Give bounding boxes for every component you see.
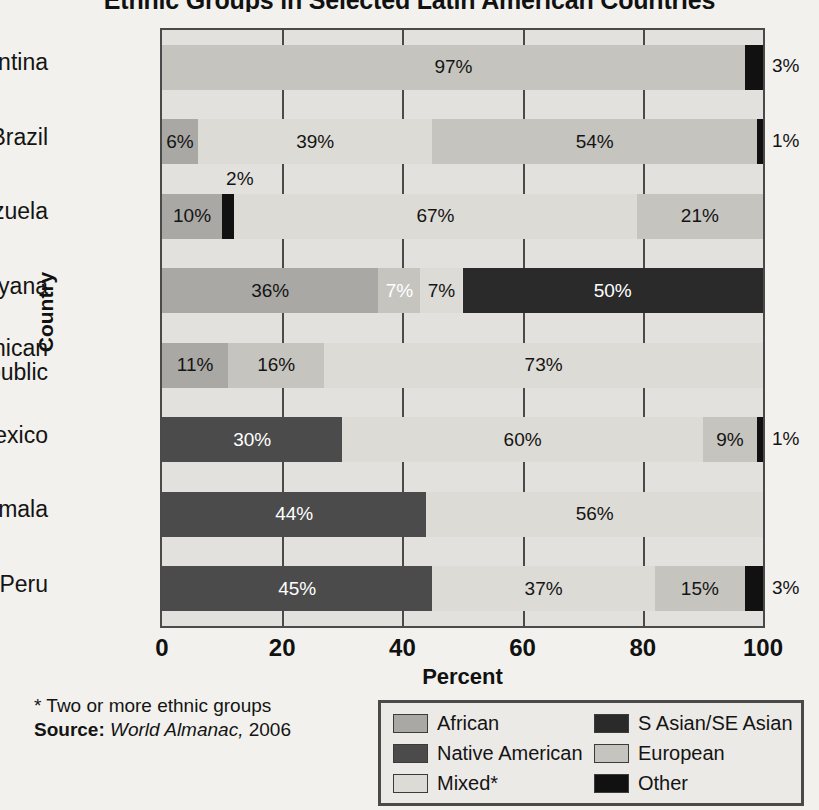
bar-segment-other <box>222 194 234 239</box>
legend-item-sasian: S Asian/SE Asian <box>594 708 793 738</box>
bar-segment-other <box>745 566 763 611</box>
legend-item-native: Native American <box>393 738 592 768</box>
x-axis-title: Percent <box>160 664 765 690</box>
bar-row-guyana: 36%7%7%50% <box>162 268 763 313</box>
segment-value-label-outside: 3% <box>772 577 799 599</box>
country-label-mexico: Mexico <box>0 424 48 447</box>
legend-label-african: African <box>437 712 499 735</box>
bar-segment-mixed: 37% <box>432 566 654 611</box>
bar-segment-european: 21% <box>637 194 763 239</box>
segment-value-label: 10% <box>173 205 211 227</box>
bar-segment-mixed: 7% <box>420 268 462 313</box>
bar-row-dominican-republic: 11%16%73% <box>162 343 763 388</box>
legend: AfricanS Asian/SE AsianNative AmericanEu… <box>378 700 804 806</box>
country-label-peru: Peru <box>0 573 48 596</box>
x-tick-40: 40 <box>367 634 437 662</box>
bar-segment-sasian: 50% <box>463 268 764 313</box>
bar-segment-european: 54% <box>432 119 757 164</box>
segment-value-label: 11% <box>177 354 214 376</box>
segment-value-label-outside: 1% <box>772 428 799 450</box>
bar-row-brazil: 6%39%54% <box>162 119 763 164</box>
legend-swatch-mixed <box>393 774 428 793</box>
segment-value-label-callout: 2% <box>226 168 253 190</box>
source-label: Source: <box>34 719 105 740</box>
segment-value-label: 37% <box>525 578 563 600</box>
country-label-guatemala: Guatemala <box>0 498 48 521</box>
bar-segment-european: 15% <box>655 566 745 611</box>
legend-label-mixed: Mixed* <box>437 772 498 795</box>
bar-segment-native: 45% <box>162 566 432 611</box>
bar-segment-other <box>757 417 763 462</box>
legend-item-other: Other <box>594 769 793 799</box>
x-tick-60: 60 <box>488 634 558 662</box>
segment-value-label: 60% <box>504 429 542 451</box>
segment-value-label: 7% <box>428 280 455 302</box>
legend-swatch-sasian <box>594 714 629 733</box>
segment-value-label: 9% <box>716 429 743 451</box>
bar-segment-other <box>745 45 763 90</box>
segment-value-label: 6% <box>166 131 193 153</box>
legend-label-other: Other <box>638 772 688 795</box>
legend-swatch-european <box>594 744 629 763</box>
x-tick-20: 20 <box>247 634 317 662</box>
x-tick-0: 0 <box>127 634 197 662</box>
bar-segment-native: 30% <box>162 417 342 462</box>
segment-value-label: 56% <box>576 503 614 525</box>
footnote: * Two or more ethnic groups <box>34 694 291 718</box>
segment-value-label: 21% <box>681 205 719 227</box>
bar-row-venezuela: 10%67%21% <box>162 194 763 239</box>
bar-segment-african: 10% <box>162 194 222 239</box>
bar-segment-european: 7% <box>378 268 420 313</box>
chart-title: Ethnic Groups in Selected Latin American… <box>0 0 819 12</box>
country-label-guyana: Guyana <box>0 275 48 298</box>
bar-segment-european: 16% <box>228 343 324 388</box>
segment-value-label: 7% <box>386 280 413 302</box>
segment-value-label: 16% <box>257 354 295 376</box>
bar-row-guatemala: 44%56% <box>162 492 763 537</box>
segment-value-label: 54% <box>576 131 614 153</box>
segment-value-label: 50% <box>594 280 632 302</box>
notes-block: * Two or more ethnic groups Source: Worl… <box>34 694 291 743</box>
bar-segment-mixed: 39% <box>198 119 432 164</box>
segment-value-label: 44% <box>275 503 313 525</box>
bar-segment-mixed: 56% <box>426 492 763 537</box>
legend-swatch-african <box>393 714 428 733</box>
bar-row-peru: 45%37%15% <box>162 566 763 611</box>
bar-segment-african: 36% <box>162 268 378 313</box>
legend-label-sasian: S Asian/SE Asian <box>638 712 793 735</box>
bar-segment-european: 9% <box>703 417 757 462</box>
legend-label-native: Native American <box>437 742 583 765</box>
country-label-venezuela: Venezuela <box>0 200 48 223</box>
x-tick-80: 80 <box>608 634 678 662</box>
segment-value-label-outside: 1% <box>772 130 799 152</box>
bar-segment-african: 6% <box>162 119 198 164</box>
bar-segment-african: 11% <box>162 343 228 388</box>
legend-label-european: European <box>638 742 725 765</box>
segment-value-label: 67% <box>416 205 454 227</box>
bar-segment-european: 97% <box>162 45 745 90</box>
segment-value-label: 39% <box>296 131 334 153</box>
segment-value-label: 73% <box>525 354 563 376</box>
segment-value-label: 30% <box>233 429 271 451</box>
legend-item-african: African <box>393 708 592 738</box>
country-label-dominican-republic: Dominican Republic <box>0 337 48 384</box>
bar-row-mexico: 30%60%9% <box>162 417 763 462</box>
bar-row-argentina: 97% <box>162 45 763 90</box>
legend-item-european: European <box>594 738 793 768</box>
bar-segment-mixed: 60% <box>342 417 703 462</box>
bar-segment-mixed: 73% <box>324 343 763 388</box>
source-name: World Almanac, <box>110 719 243 740</box>
legend-item-mixed: Mixed* <box>393 769 592 799</box>
segment-value-label: 45% <box>278 578 316 600</box>
country-label-brazil: Brazil <box>0 126 48 149</box>
legend-swatch-native <box>393 744 428 763</box>
segment-value-label: 15% <box>681 578 719 600</box>
segment-value-label: 36% <box>251 280 289 302</box>
segment-value-label-outside: 3% <box>772 55 799 77</box>
source-year: 2006 <box>249 719 291 740</box>
legend-swatch-other <box>594 774 629 793</box>
bar-segment-native: 44% <box>162 492 426 537</box>
x-tick-100: 100 <box>728 634 798 662</box>
country-label-argentina: Argentina <box>0 51 48 74</box>
segment-value-label: 97% <box>434 56 472 78</box>
